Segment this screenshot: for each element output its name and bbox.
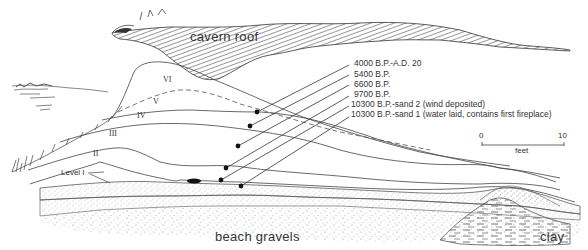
date-label-6: 10300 B.P.-sand 1 (water laid, contains … bbox=[351, 109, 552, 119]
level-iii-label: III bbox=[109, 129, 117, 138]
grass-slope bbox=[12, 106, 122, 172]
date-leader-lines bbox=[221, 65, 349, 186]
date-label-5: 10300 B.P.-sand 2 (wind deposited) bbox=[351, 99, 485, 109]
section-drawing bbox=[0, 0, 588, 250]
date-label-4: 9700 B.P. bbox=[354, 89, 390, 99]
level-ii-label: II bbox=[93, 149, 98, 158]
level-i-pointer bbox=[88, 172, 110, 183]
scale-start-label: 0 bbox=[479, 131, 483, 140]
level-v-label: V bbox=[153, 97, 159, 106]
date-label-1: 4000 B.P.-A.D. 20 bbox=[354, 58, 421, 68]
scale-unit-label: feet bbox=[515, 146, 528, 155]
sample-dots bbox=[219, 110, 260, 189]
clay-label: clay bbox=[540, 229, 564, 244]
cavern-roof-label: cavern roof bbox=[190, 29, 258, 44]
layer-iv-boundary bbox=[102, 110, 556, 182]
level-iv-label: IV bbox=[137, 111, 145, 120]
date-label-2: 5400 B.P. bbox=[354, 69, 390, 79]
level-i-label: Level I bbox=[61, 168, 85, 177]
shoreline-sketch bbox=[12, 83, 108, 110]
level-vi-label: VI bbox=[163, 75, 171, 84]
date-label-3: 6600 B.P. bbox=[354, 79, 390, 89]
first-fireplace-lens bbox=[187, 179, 201, 184]
beach-gravels-label: beach gravels bbox=[215, 229, 300, 244]
scale-end-label: 10 bbox=[558, 131, 567, 140]
stratigraphy-diagram: cavern roof beach gravels clay VI V IV I… bbox=[0, 0, 588, 250]
